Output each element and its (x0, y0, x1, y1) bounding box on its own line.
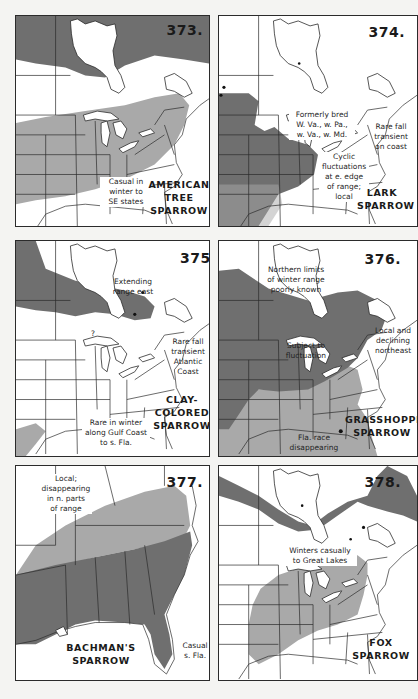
note-local-disappearing: Local; disappearing in n. parts of range (40, 474, 92, 514)
note-formerly-bred: Formerly bred W. Va., w. Pa., w. Va., w.… (289, 110, 355, 140)
note-extending-range: Extending range east (108, 277, 158, 297)
note-northern-limits: Northern limits of winter range poorly k… (261, 265, 331, 295)
species-title: AMERICAN TREE SPARROW (146, 178, 210, 217)
map-number: 377. (166, 474, 203, 490)
species-title: GRASSHOPPER SPARROW (345, 413, 418, 439)
note-local-declining: Local and declining northeast (371, 326, 415, 356)
note-winters-casually: Winters casually to Great Lakes (283, 546, 357, 566)
note-question-mark: ? (88, 329, 98, 339)
species-title: BACHMAN'S SPARROW (66, 641, 136, 667)
map-panel-374: 374. Formerly bred W. Va., w. Pa., w. Va… (218, 15, 418, 227)
note-casual-s-fla: Casual s. Fla. (180, 641, 210, 661)
note-rare-in-winter: Rare in winter along Gulf Coast to s. Fl… (82, 418, 150, 448)
map-number: 378. (364, 474, 401, 490)
map-panel-376: 376. Northern limits of winter range poo… (218, 240, 418, 457)
map-panel-377: 377. Local; disappearing in n. parts of … (15, 465, 210, 681)
species-title: CLAY- COLORED SPARROW (152, 393, 210, 432)
map-panel-378: 378. Winters casually to Great Lakes FOX… (218, 465, 418, 681)
map-number: 375. (180, 250, 210, 266)
note-rare-fall-transient: Rare fall transient Atlantic Coast (166, 337, 210, 377)
note-subject-to-fluctuation: Subject to fluctuation (281, 341, 331, 361)
species-title: FOX SPARROW (351, 636, 411, 662)
map-number: 374. (368, 24, 405, 40)
map-panel-375: 375. Extending range east ? Rare fall tr… (15, 240, 210, 457)
note-fla-race: Fla. race disappearing (287, 433, 341, 453)
note-casual-winter: Casual in winter to SE states (100, 177, 152, 207)
species-title: LARK SPARROW (357, 186, 407, 212)
map-number: 373. (166, 22, 203, 38)
map-number: 376. (364, 251, 401, 267)
map-panel-373: 373. Casual in winter to SE states AMERI… (15, 15, 210, 227)
note-rare-fall-transient: Rare fall transient on coast (371, 122, 411, 152)
